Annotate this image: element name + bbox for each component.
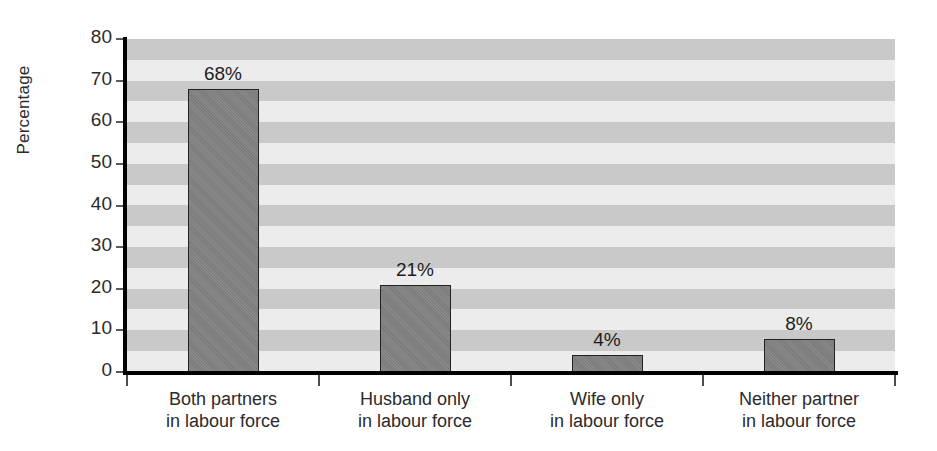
bar — [188, 89, 259, 372]
bar-value-label: 21% — [365, 259, 465, 281]
bar-value-label: 4% — [557, 329, 657, 351]
y-axis-tick-label: 80 — [91, 26, 112, 48]
x-axis-category-label-line: Neither partner — [689, 388, 909, 410]
x-axis-category-label: Husband onlyin labour force — [305, 388, 525, 432]
x-axis-category-label-line: Husband only — [305, 388, 525, 410]
y-axis-tick-label: 60 — [91, 109, 112, 131]
x-axis-category-label: Both partnersin labour force — [113, 388, 333, 432]
x-axis-tick-mark — [126, 375, 128, 386]
bar — [572, 355, 643, 372]
y-axis-line — [123, 37, 127, 374]
bar — [764, 339, 835, 372]
x-axis-category-label-line: Both partners — [113, 388, 333, 410]
y-axis-tick-label: 30 — [91, 234, 112, 256]
bar — [380, 285, 451, 372]
bar-value-label: 8% — [749, 313, 849, 335]
y-axis-tick-label: 70 — [91, 68, 112, 90]
y-axis-tick-label: 20 — [91, 276, 112, 298]
x-axis-category-label: Neither partnerin labour force — [689, 388, 909, 432]
x-axis-tick-mark — [318, 375, 320, 386]
x-axis-tick-mark — [702, 375, 704, 386]
y-axis-ticks: 01020304050607080 — [0, 0, 127, 451]
x-axis-tick-mark — [894, 375, 896, 386]
x-axis-category-label-line: Wife only — [497, 388, 717, 410]
x-axis-category-label-line: in labour force — [305, 410, 525, 432]
x-axis-category-label-line: in labour force — [689, 410, 909, 432]
x-axis-category-label-line: in labour force — [113, 410, 333, 432]
x-axis-tick-mark — [510, 375, 512, 386]
y-axis-tick-label: 40 — [91, 193, 112, 215]
bar-chart: Percentage 01020304050607080 68%21%4%8% … — [0, 0, 937, 451]
y-axis-tick-label: 10 — [91, 317, 112, 339]
bar-value-label: 68% — [173, 63, 273, 85]
y-axis-tick-label: 50 — [91, 151, 112, 173]
y-axis-tick-label: 0 — [101, 359, 112, 381]
x-axis-category-label: Wife onlyin labour force — [497, 388, 717, 432]
x-axis-category-label-line: in labour force — [497, 410, 717, 432]
